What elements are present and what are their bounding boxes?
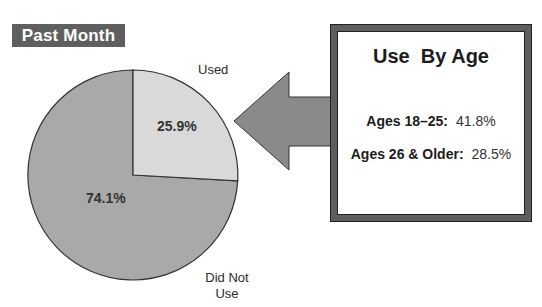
row-value: 28.5% [472,146,512,162]
row-key: Ages 18–25: [366,113,448,129]
label-did-not-use-line2: Use [202,286,252,302]
row-ages-26-older: Ages 26 & Older:28.5% [337,146,525,162]
value-did-not-use: 74.1% [86,190,126,206]
label-did-not-use: Did Not Use [202,270,252,302]
row-value: 41.8% [456,113,496,129]
value-used: 25.9% [157,118,197,134]
use-by-age-panel: Use By Age Ages 18–25:41.8% Ages 26 & Ol… [331,25,531,221]
row-ages-18-25: Ages 18–25:41.8% [337,113,525,129]
arrow-left-icon [234,72,337,170]
label-did-not-use-line1: Did Not [202,270,252,286]
panel-title: Use By Age [337,45,525,68]
row-key: Ages 26 & Older: [351,146,464,162]
label-used: Used [198,62,228,78]
